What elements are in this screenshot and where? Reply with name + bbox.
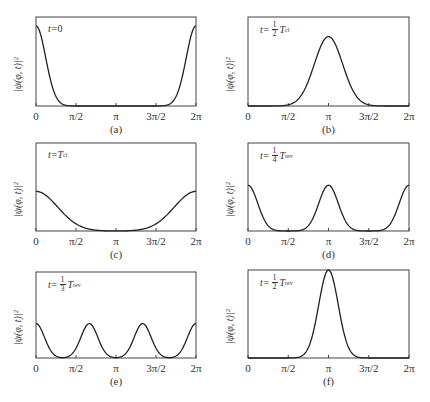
y-axis-label: |ψ(φ, t)|² — [224, 309, 235, 344]
time-fraction: 12 — [272, 274, 278, 291]
time-prefix: t= — [260, 277, 270, 288]
x-tick-label: 0 — [245, 362, 251, 374]
x-tick-label: 3π/2 — [359, 362, 379, 374]
plot-area — [0, 0, 430, 402]
x-tick-label: π/2 — [281, 362, 295, 374]
period-subscript: rev — [285, 280, 293, 286]
panel-caption: (f) — [323, 375, 334, 387]
x-tick-label: π — [326, 362, 332, 374]
fraction-denominator: 2 — [273, 283, 277, 291]
time-annotation: t=12Trev — [260, 274, 293, 291]
x-tick-label: 2π — [403, 362, 414, 374]
